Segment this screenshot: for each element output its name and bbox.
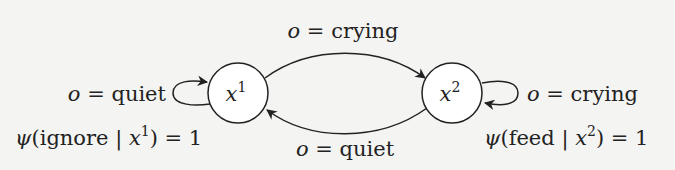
equals-sign: = <box>604 126 635 150</box>
edge-x1-to-x2 <box>265 53 425 78</box>
edge-label-x1-to-x2: o = crying <box>288 19 399 43</box>
state-node-x1: x1 <box>208 63 268 123</box>
given-bar: | <box>108 126 128 151</box>
state-node-x2: x2 <box>422 63 482 123</box>
action-name: feed <box>509 126 555 150</box>
equals-sign: = <box>80 82 111 106</box>
state-index: 2 <box>451 79 460 95</box>
observation-var: o <box>527 82 540 106</box>
psi-symbol: ψ <box>15 126 32 150</box>
state-var: x <box>575 126 587 150</box>
close-paren: ) <box>150 126 158 150</box>
open-paren: ( <box>31 126 39 150</box>
probability-value: 1 <box>189 126 202 150</box>
state-var: x <box>440 82 452 106</box>
self-loop-label-x1: o = quiet <box>68 82 167 106</box>
close-paren: ) <box>596 126 604 150</box>
state-transition-diagram: o = crying o = quiet o = quiet o = cryin… <box>0 0 675 170</box>
state-var: x <box>129 126 141 150</box>
observation-value: crying <box>331 19 398 43</box>
observation-value: quiet <box>111 82 166 106</box>
observation-var: o <box>68 82 81 106</box>
observation-var: o <box>296 137 309 161</box>
policy-label-x2: ψ(feed | x2) = 1 <box>484 123 648 151</box>
self-loop-x1 <box>173 81 210 105</box>
equals-sign: = <box>540 82 571 106</box>
state-index: 1 <box>237 79 246 95</box>
policy-label-x1: ψ(ignore | x1) = 1 <box>15 123 202 151</box>
equals-sign: = <box>309 137 340 161</box>
equals-sign: = <box>158 126 189 150</box>
given-bar: | <box>555 126 575 151</box>
edge-label-x2-to-x1: o = quiet <box>296 137 395 161</box>
observation-value: quiet <box>340 137 395 161</box>
state-index: 1 <box>141 123 150 139</box>
action-name: ignore <box>40 126 109 150</box>
self-loop-label-x2: o = crying <box>527 82 638 106</box>
observation-var: o <box>288 19 301 43</box>
open-paren: ( <box>500 126 508 150</box>
edge-x2-to-x1 <box>267 108 427 134</box>
observation-value: crying <box>571 82 638 106</box>
state-var: x <box>226 82 238 106</box>
equals-sign: = <box>300 19 331 43</box>
state-index: 2 <box>587 123 596 139</box>
probability-value: 1 <box>635 126 648 150</box>
psi-symbol: ψ <box>484 126 501 150</box>
self-loop-x2 <box>482 81 518 104</box>
